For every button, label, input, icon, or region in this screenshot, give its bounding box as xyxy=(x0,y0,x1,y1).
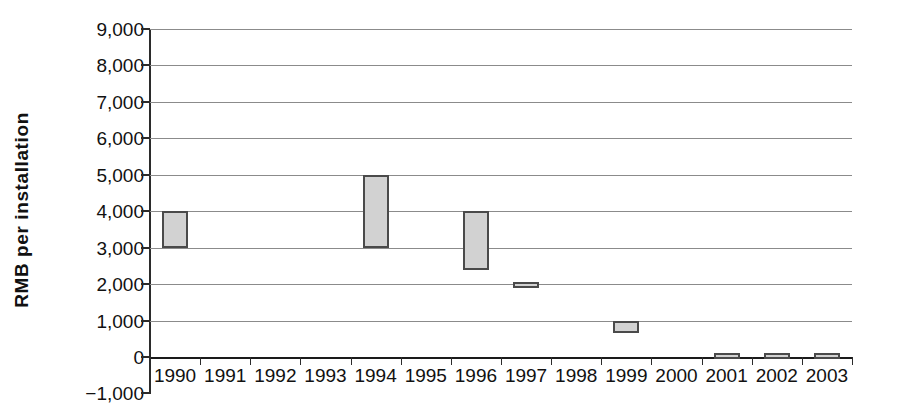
x-tick-label: 1991 xyxy=(200,366,250,385)
y-tick-mark xyxy=(141,64,150,66)
y-tick-label: 5,000 xyxy=(52,165,144,184)
gridline xyxy=(150,321,852,322)
gridline xyxy=(150,175,852,176)
x-tick-label: 2001 xyxy=(702,366,752,385)
y-tick-mark xyxy=(141,283,150,285)
y-tick-label: 3,000 xyxy=(52,238,144,257)
gridline xyxy=(150,138,852,139)
gridline xyxy=(150,29,852,30)
x-tick-mark xyxy=(250,357,251,365)
y-tick-mark xyxy=(141,137,150,139)
x-tick-mark xyxy=(702,357,703,365)
y-tick-mark xyxy=(141,28,150,30)
x-tick-mark xyxy=(451,357,452,365)
y-tick-mark xyxy=(141,101,150,103)
y-tick-label: 1,000 xyxy=(52,311,144,330)
y-tick-label: 7,000 xyxy=(52,92,144,111)
x-tick-label: 1990 xyxy=(150,366,200,385)
gridline xyxy=(150,284,852,285)
y-tick-mark xyxy=(141,356,150,358)
x-tick-mark xyxy=(601,357,602,365)
y-tick-mark xyxy=(141,247,150,249)
x-tick-label: 1994 xyxy=(351,366,401,385)
bar-2001 xyxy=(714,353,740,359)
x-tick-mark xyxy=(852,357,853,365)
x-tick-mark xyxy=(802,357,803,365)
x-tick-label: 1993 xyxy=(300,366,350,385)
y-tick-mark xyxy=(141,320,150,322)
x-tick-mark xyxy=(150,357,151,365)
gridline xyxy=(150,248,852,249)
y-tick-label: 8,000 xyxy=(52,56,144,75)
bar-1997 xyxy=(513,282,539,287)
gridline xyxy=(150,65,852,66)
y-tick-mark xyxy=(141,210,150,212)
y-axis-tick-labels: 9,0008,0007,0006,0005,0004,0003,0002,000… xyxy=(44,0,144,420)
x-tick-label: 2000 xyxy=(651,366,701,385)
plot-area xyxy=(150,29,852,357)
bar-1990 xyxy=(162,211,188,247)
x-tick-label: 1997 xyxy=(501,366,551,385)
x-tick-mark xyxy=(300,357,301,365)
x-tick-mark xyxy=(401,357,402,365)
bar-1994 xyxy=(363,175,389,248)
y-axis-title: RMB per installation xyxy=(0,0,44,420)
bar-2002 xyxy=(764,353,790,359)
x-axis-tick-labels: 1990199119921993199419951996199719981999… xyxy=(150,366,852,392)
x-tick-mark xyxy=(351,357,352,365)
gridline xyxy=(150,102,852,103)
y-tick-mark xyxy=(141,174,150,176)
x-tick-label: 2002 xyxy=(752,366,802,385)
x-tick-label: 2003 xyxy=(802,366,852,385)
bar-1999 xyxy=(613,321,639,334)
x-tick-mark xyxy=(651,357,652,365)
x-tick-mark xyxy=(200,357,201,365)
chart-container: RMB per installation 9,0008,0007,0006,00… xyxy=(0,0,898,420)
x-tick-mark xyxy=(551,357,552,365)
bar-2003 xyxy=(814,353,840,359)
x-tick-label: 1996 xyxy=(451,366,501,385)
y-tick-label: 4,000 xyxy=(52,202,144,221)
x-tick-label: 1992 xyxy=(250,366,300,385)
x-tick-mark xyxy=(501,357,502,365)
y-tick-label: 2,000 xyxy=(52,275,144,294)
y-tick-label: 6,000 xyxy=(52,129,144,148)
y-tick-label: −1,000 xyxy=(52,384,144,403)
x-tick-mark xyxy=(752,357,753,365)
y-tick-label: 9,000 xyxy=(52,20,144,39)
gridline xyxy=(150,211,852,212)
y-tick-label: 0 xyxy=(52,348,144,367)
bar-1996 xyxy=(463,211,489,269)
x-tick-label: 1999 xyxy=(601,366,651,385)
y-tick-mark xyxy=(141,392,150,394)
x-tick-label: 1995 xyxy=(401,366,451,385)
x-tick-label: 1998 xyxy=(551,366,601,385)
